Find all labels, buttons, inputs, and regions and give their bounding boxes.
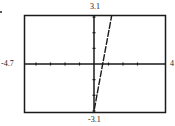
graph-plot xyxy=(0,0,175,126)
function-line xyxy=(94,16,111,110)
axes xyxy=(25,16,166,113)
